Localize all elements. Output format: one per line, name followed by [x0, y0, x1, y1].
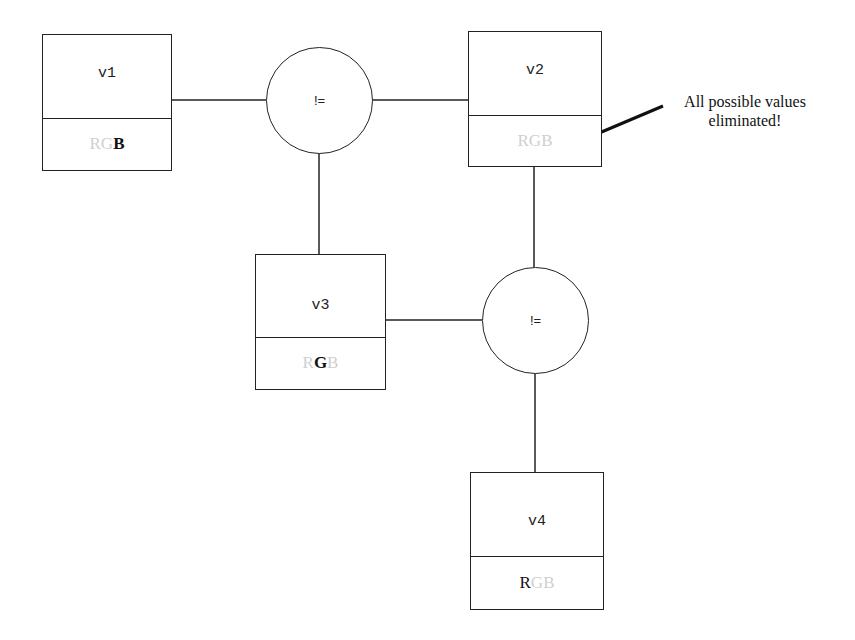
domain-value-g: G — [314, 353, 327, 372]
variable-node-v2: v2 RGB — [468, 31, 602, 167]
variable-label: v3 — [256, 297, 385, 314]
constraint-node-c1: != — [266, 47, 373, 154]
constraint-label: != — [530, 313, 541, 328]
variable-domain: RGB — [471, 556, 603, 609]
domain-value-b: B — [327, 353, 338, 372]
constraint-node-c2: != — [482, 267, 589, 374]
domain-value-b: B — [541, 131, 552, 150]
variable-domain: RGB — [43, 118, 171, 170]
constraint-label: != — [314, 93, 325, 108]
variable-label: v1 — [43, 65, 171, 82]
variable-label: v4 — [471, 513, 603, 530]
variable-node-v3: v3 RGB — [255, 254, 386, 390]
annotation-line-2: eliminated! — [660, 111, 830, 130]
annotation-line-1: All possible values — [660, 92, 830, 111]
domain-value-r: R — [303, 353, 314, 372]
domain-value-r: R — [90, 134, 101, 153]
annotation-text: All possible values eliminated! — [660, 92, 830, 130]
domain-value-g: G — [529, 131, 541, 150]
domain-value-r: R — [518, 131, 529, 150]
variable-node-v4: v4 RGB — [470, 472, 604, 610]
variable-node-v1: v1 RGB — [42, 34, 172, 171]
variable-label: v2 — [469, 62, 601, 79]
variable-domain: RGB — [256, 337, 385, 389]
domain-value-b: B — [543, 573, 554, 592]
domain-value-b: B — [113, 134, 124, 153]
variable-domain: RGB — [469, 115, 601, 166]
domain-value-g: G — [101, 134, 113, 153]
domain-value-g: G — [531, 573, 543, 592]
domain-value-r: R — [520, 573, 531, 592]
